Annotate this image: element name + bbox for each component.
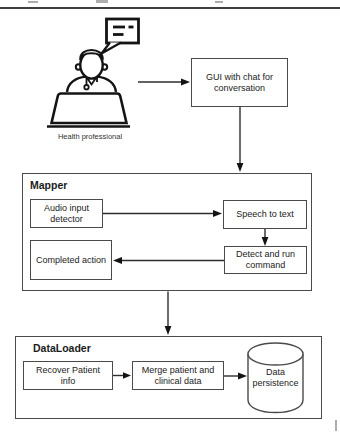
health-professional-figure xyxy=(40,12,140,142)
actor-label: Health professional xyxy=(38,132,142,141)
arrow-mapper-to-dataloader xyxy=(165,292,172,336)
arrow-gui-to-mapper xyxy=(237,107,244,172)
scan-artifact xyxy=(96,0,108,3)
node-data-persistence: Data persistence xyxy=(246,367,305,389)
node-recover-patient-info: Recover Patient info xyxy=(23,361,113,390)
health-professional-icon xyxy=(47,50,130,127)
node-gui-with-chat: GUI with chat for conversation xyxy=(191,58,288,107)
scan-artifact xyxy=(28,1,38,3)
dataloader-title: DataLoader xyxy=(33,342,91,354)
mapper-title: Mapper xyxy=(30,179,67,191)
top-rule xyxy=(0,7,340,9)
scan-artifact xyxy=(215,1,223,3)
node-speech-to-text: Speech to text xyxy=(223,200,307,229)
diagram-canvas: Health professional Mapper DataLoader GU… xyxy=(0,0,340,434)
node-audio-input-detector: Audio input detector xyxy=(30,199,103,228)
node-completed-action: Completed action xyxy=(30,240,112,280)
arrow-actor-to-gui xyxy=(138,79,190,86)
scan-artifact xyxy=(335,420,337,431)
node-detect-and-run-command: Detect and run command xyxy=(224,246,307,274)
node-merge-patient-clinical-data: Merge patient and clinical data xyxy=(132,361,224,390)
chat-bubble-icon xyxy=(102,19,139,54)
